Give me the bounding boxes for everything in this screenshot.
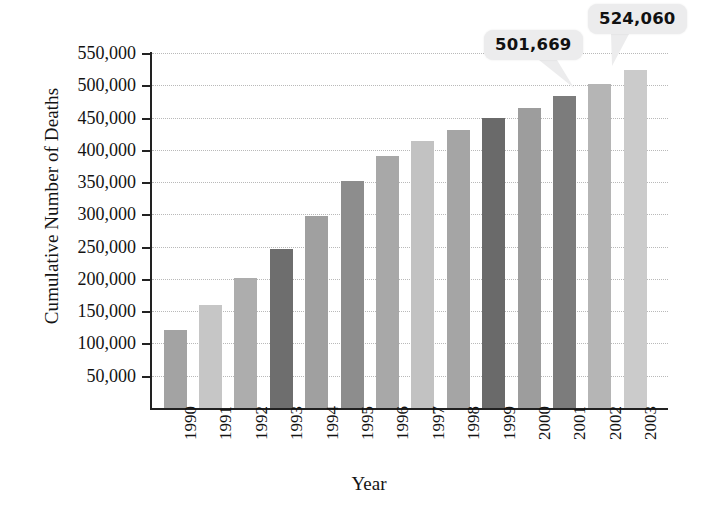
bar-1997[interactable] <box>411 141 434 408</box>
callout-2003: 524,060 <box>588 4 687 34</box>
x-tick-label-1992: 1992 <box>252 406 272 466</box>
bars-group <box>152 53 668 408</box>
x-tick-label-1991: 1991 <box>216 406 236 466</box>
y-tick-label: 450,000 <box>30 109 136 127</box>
x-tick-label-1990: 1990 <box>181 406 201 466</box>
bar-1991[interactable] <box>199 305 222 408</box>
y-tick-label: 150,000 <box>30 302 136 320</box>
bar-1992[interactable] <box>234 278 257 408</box>
x-tick-label-2000: 2000 <box>535 406 555 466</box>
y-tick-label: 300,000 <box>30 205 136 223</box>
x-tick-label-2001: 2001 <box>570 406 590 466</box>
bar-2001[interactable] <box>553 96 576 408</box>
x-tick-label-1993: 1993 <box>287 406 307 466</box>
y-tick-label: 100,000 <box>30 334 136 352</box>
x-tick-label-1999: 1999 <box>500 406 520 466</box>
bar-1994[interactable] <box>305 216 328 408</box>
x-tick-label-2002: 2002 <box>606 406 626 466</box>
bar-2002[interactable] <box>588 84 611 408</box>
bar-chart-figure: Cumulative Number of Deaths 50,000100,00… <box>0 0 704 512</box>
x-tick-label-1995: 1995 <box>358 406 378 466</box>
bar-1996[interactable] <box>376 156 399 408</box>
x-tick-label-1998: 1998 <box>464 406 484 466</box>
y-tick-label: 400,000 <box>30 141 136 159</box>
callout-2002: 501,669 <box>484 30 583 60</box>
y-tick-label: 350,000 <box>30 173 136 191</box>
x-tick-label-1996: 1996 <box>393 406 413 466</box>
bar-1990[interactable] <box>164 330 187 408</box>
bar-2003[interactable] <box>624 70 647 408</box>
x-tick-label-2003: 2003 <box>641 406 661 466</box>
bar-1998[interactable] <box>447 130 470 408</box>
x-axis-title: Year <box>0 473 704 495</box>
x-tick-label-1997: 1997 <box>429 406 449 466</box>
y-tick-label: 200,000 <box>30 270 136 288</box>
bar-1993[interactable] <box>270 249 293 408</box>
y-tick-label: 500,000 <box>30 76 136 94</box>
bar-2000[interactable] <box>518 108 541 408</box>
x-axis-tick-labels: 1990199119921993199419951996199719981999… <box>152 410 668 470</box>
y-tick-label: 250,000 <box>30 238 136 256</box>
y-tick-label: 550,000 <box>30 44 136 62</box>
y-tick-label: 50,000 <box>30 367 136 385</box>
bar-1999[interactable] <box>482 118 505 408</box>
bar-1995[interactable] <box>341 181 364 408</box>
x-tick-label-1994: 1994 <box>323 406 343 466</box>
